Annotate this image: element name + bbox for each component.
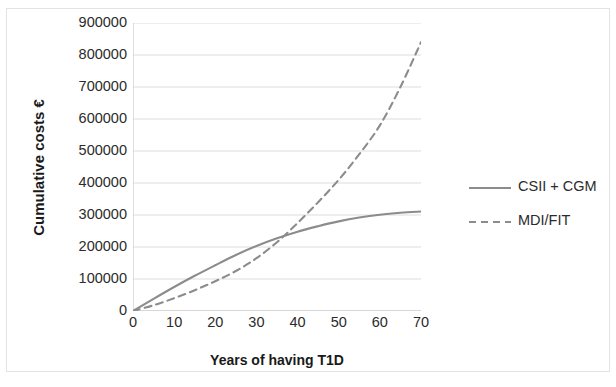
legend-item[interactable]: MDI/FIT (469, 203, 609, 237)
series-lines (133, 42, 421, 311)
y-tick-label: 100000 (49, 271, 127, 285)
chart-container: Cumulative costs € 010000020000030000040… (6, 8, 610, 372)
x-tick-label: 70 (401, 314, 441, 330)
series-line-0 (133, 211, 421, 311)
plot-area (133, 23, 421, 311)
x-axis-tick-labels: 010203040506070 (7, 314, 611, 338)
legend-item[interactable]: CSII + CGM (469, 169, 609, 203)
y-tick-label: 400000 (49, 175, 127, 189)
axis-lines (133, 23, 421, 311)
legend-label: MDI/FIT (518, 212, 570, 228)
y-tick-label: 600000 (49, 111, 127, 125)
axis-tickmarks (133, 23, 421, 311)
y-tick-label: 200000 (49, 239, 127, 253)
gridlines (133, 23, 421, 311)
y-tick-label: 700000 (49, 79, 127, 93)
y-tick-label: 900000 (49, 15, 127, 29)
x-tick-label: 30 (236, 314, 276, 330)
series-line-1 (133, 42, 421, 311)
x-tick-label: 50 (319, 314, 359, 330)
x-tick-label: 10 (154, 314, 194, 330)
y-tick-label: 800000 (49, 47, 127, 61)
x-tick-label: 20 (195, 314, 235, 330)
legend-swatch-icon (469, 180, 511, 192)
x-tick-label: 40 (278, 314, 318, 330)
x-axis-title: Years of having T1D (127, 352, 427, 368)
y-axis-title: Cumulative costs € (30, 53, 47, 283)
y-tick-label: 300000 (49, 207, 127, 221)
y-tick-label: 500000 (49, 143, 127, 157)
x-tick-label: 0 (113, 314, 153, 330)
chart-legend: CSII + CGMMDI/FIT (469, 169, 609, 237)
x-tick-label: 60 (360, 314, 400, 330)
plot-svg (133, 23, 421, 311)
legend-swatch-icon (469, 214, 511, 226)
legend-label: CSII + CGM (518, 178, 597, 194)
